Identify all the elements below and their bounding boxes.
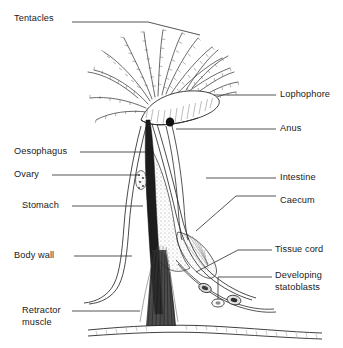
label-tissue-cord: Tissue cord	[275, 244, 323, 256]
ovary	[136, 171, 147, 190]
label-body-wall: Body wall	[14, 250, 54, 262]
label-anus: Anus	[280, 123, 301, 135]
anus	[166, 117, 174, 126]
label-tentacles: Tentacles	[14, 13, 54, 25]
label-caecum: Caecum	[280, 195, 315, 207]
label-developing-statoblasts: Developing statoblasts	[275, 270, 322, 293]
label-stomach: Stomach	[22, 200, 59, 212]
label-ovary: Ovary	[14, 169, 39, 181]
label-lophophore: Lophophore	[280, 89, 330, 101]
label-intestine: Intestine	[280, 172, 316, 184]
label-oesophagus: Oesophagus	[14, 146, 67, 158]
label-retractor-muscle: Retractor muscle	[22, 305, 61, 328]
statoblast	[212, 299, 224, 307]
